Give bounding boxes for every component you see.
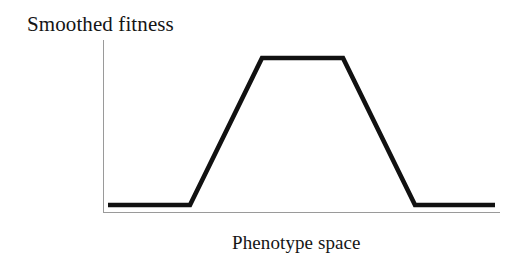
x-axis-title: Phenotype space: [232, 231, 361, 255]
smoothed-fitness-curve: [108, 58, 495, 205]
figure-container: Smoothed fitness Phenotype space: [0, 0, 518, 271]
